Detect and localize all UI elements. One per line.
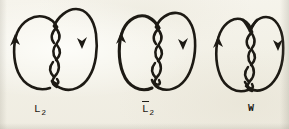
- W-left-arrowhead: [213, 36, 223, 48]
- figure-root: L2 L2 W: [0, 0, 289, 129]
- link-diagram-W: [0, 0, 289, 129]
- W-braid-strand-a3: [245, 67, 249, 82]
- W-right-arrowhead: [273, 39, 283, 51]
